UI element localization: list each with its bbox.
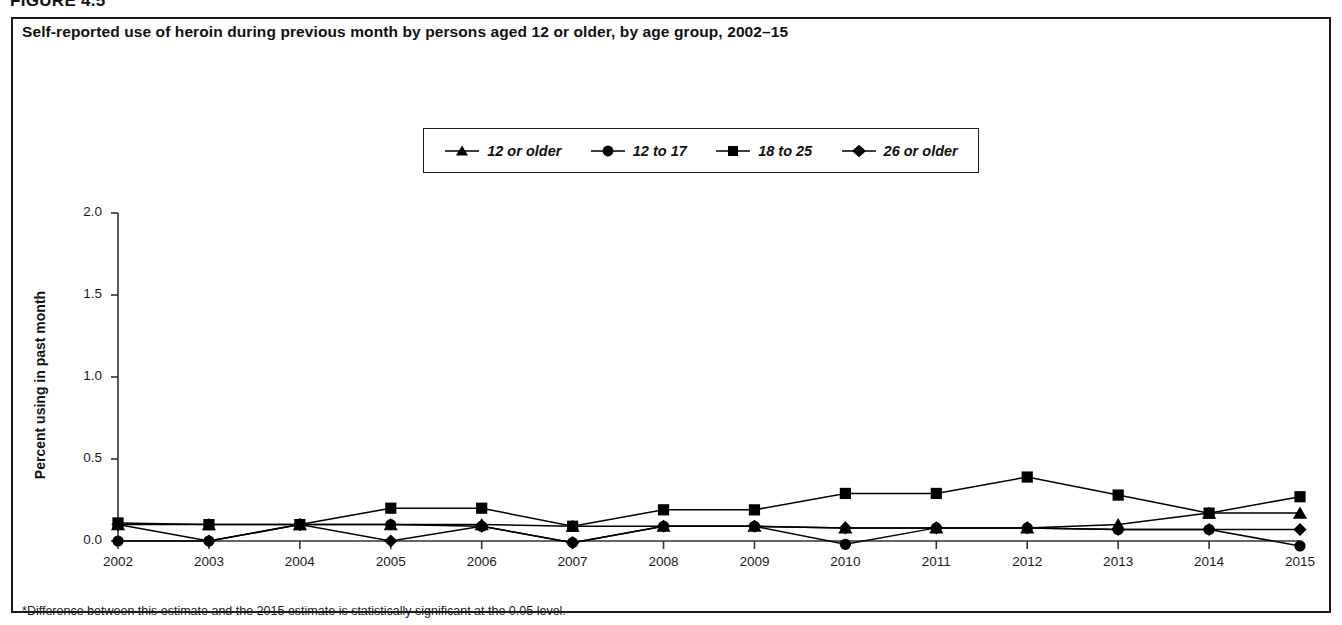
x-tick-label: 2007 (558, 554, 588, 569)
x-tick-label: 2011 (922, 554, 951, 569)
y-tick-label: 1.5 (54, 286, 102, 301)
data-point-diamond (384, 534, 397, 547)
figure-page: FIGURE 4.5 Self-reported use of heroin d… (0, 0, 1342, 625)
data-point-square (1022, 471, 1033, 482)
y-tick-label: 0.5 (54, 450, 102, 465)
data-point-diamond (1202, 523, 1215, 536)
x-tick-label: 2002 (103, 554, 133, 569)
x-tick-label: 2010 (830, 554, 860, 569)
x-tick-label: 2009 (739, 554, 769, 569)
footnote-text: Difference between this estimate and the… (27, 604, 566, 618)
data-point-square (385, 503, 396, 514)
data-point-diamond (566, 536, 579, 549)
x-tick-label: 2008 (649, 554, 679, 569)
x-tick-label: 2012 (1012, 554, 1042, 569)
data-point-square (203, 519, 214, 530)
data-point-square (1113, 489, 1124, 500)
chart-footnote: *Difference between this estimate and th… (22, 604, 566, 618)
x-tick-label: 2005 (376, 554, 406, 569)
data-point-diamond (202, 534, 215, 547)
data-point-diamond (1293, 523, 1306, 536)
series-line (118, 477, 1300, 526)
series-26-or-older (111, 518, 1306, 549)
data-point-square (1203, 508, 1214, 519)
data-point-square (840, 488, 851, 499)
x-tick-label: 2013 (1103, 554, 1133, 569)
data-point-circle (385, 519, 396, 530)
y-tick-label: 1.0 (54, 368, 102, 383)
data-point-circle (1294, 540, 1305, 551)
x-tick-label: 2014 (1194, 554, 1224, 569)
y-tick-label: 0.0 (54, 532, 102, 547)
data-point-square (1294, 491, 1305, 502)
x-tick-label: 2004 (285, 554, 315, 569)
data-point-circle (840, 539, 851, 550)
data-point-square (567, 521, 578, 532)
data-point-square (749, 504, 760, 515)
x-tick-label: 2015 (1285, 554, 1315, 569)
y-tick-label: 2.0 (54, 204, 102, 219)
data-point-square (658, 504, 669, 515)
data-point-square (931, 488, 942, 499)
data-point-diamond (475, 520, 488, 533)
x-tick-label: 2006 (467, 554, 497, 569)
data-point-circle (112, 535, 123, 546)
data-point-square (476, 503, 487, 514)
x-tick-label: 2003 (194, 554, 224, 569)
chart-plot-area (0, 0, 1342, 625)
